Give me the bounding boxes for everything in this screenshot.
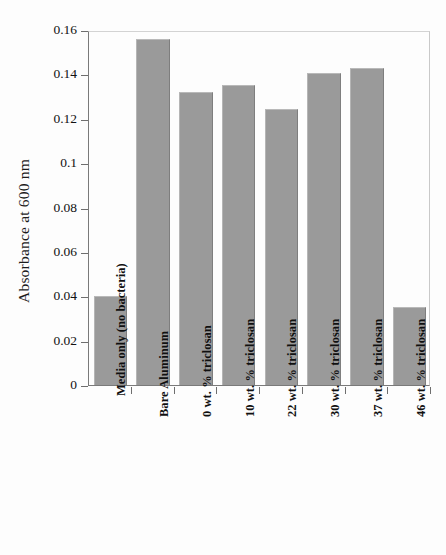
y-tick-mark	[81, 209, 88, 210]
x-tick-mark	[387, 387, 388, 394]
x-axis-label: 22 wt. % triclosan	[285, 319, 300, 417]
y-tick-label: 0	[70, 377, 77, 393]
x-tick-mark	[430, 387, 431, 394]
y-axis-title: Absorbance at 600 nm	[15, 101, 33, 361]
y-tick-mark	[81, 120, 88, 121]
y-tick-mark	[81, 31, 88, 32]
y-tick-label: 0.08	[53, 200, 77, 216]
x-tick-mark	[174, 387, 175, 394]
x-axis-label: Bare Aluminum	[157, 331, 172, 417]
y-tick-label: 0.1	[60, 155, 77, 171]
y-tick-mark	[81, 164, 88, 165]
y-tick-label: 0.12	[53, 111, 77, 127]
y-tick-mark	[81, 297, 88, 298]
x-axis-label: 46 wt. % triclosan	[414, 319, 429, 417]
x-tick-mark	[131, 387, 132, 394]
y-tick-label: 0.06	[53, 244, 77, 260]
y-tick-label: 0.04	[53, 288, 77, 304]
x-axis-label: 37 wt. % triclosan	[371, 319, 386, 417]
y-tick-label: 0.14	[53, 66, 77, 82]
x-tick-mark	[302, 387, 303, 394]
y-tick-mark	[81, 342, 88, 343]
x-axis-label: Media only (no bacteria)	[114, 263, 129, 396]
y-tick-label: 0.16	[53, 22, 77, 38]
x-axis-label: 10 wt. % triclosan	[243, 319, 258, 417]
bar-chart: Absorbance at 600 nm 00.020.040.060.080.…	[0, 0, 446, 555]
y-tick-mark	[81, 253, 88, 254]
x-tick-mark	[216, 387, 217, 394]
y-tick-label: 0.02	[53, 333, 77, 349]
x-axis-label: 30 wt. % triclosan	[328, 319, 343, 417]
y-tick-mark	[81, 386, 88, 387]
x-tick-mark	[345, 387, 346, 394]
y-tick-mark	[81, 75, 88, 76]
x-axis-label: 0 wt. % triclosan	[200, 325, 215, 417]
x-tick-mark	[259, 387, 260, 394]
